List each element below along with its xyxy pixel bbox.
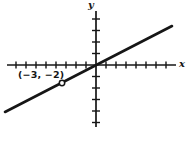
- coordinate-plane-figure: y x (−3, −2): [0, 0, 188, 168]
- line-graph-svg: [0, 0, 188, 168]
- y-axis-label: y: [88, 0, 94, 10]
- x-axis-label: x: [179, 59, 185, 69]
- open-circle-marker: [59, 80, 64, 85]
- point-label: (−3, −2): [18, 70, 64, 80]
